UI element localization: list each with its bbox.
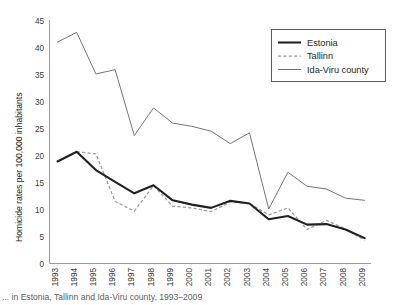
figure-container: 45 40 35 30 25 20 15 10 5 0 Homicide rat… — [0, 0, 394, 305]
x-tick-label: 1997 — [127, 268, 136, 287]
x-tick-label: 2001 — [204, 268, 213, 287]
y-tick-label: 15 — [35, 179, 45, 188]
x-tick-label: 2007 — [319, 268, 328, 287]
x-tick-label: 1998 — [147, 268, 156, 287]
homicide-rates-line-chart: 45 40 35 30 25 20 15 10 5 0 Homicide rat… — [0, 0, 394, 305]
figure-caption: ... in Estonia, Tallinn and Ida-Viru cou… — [2, 293, 202, 302]
y-tick-label: 35 — [35, 71, 45, 80]
x-tick-label: 1999 — [166, 268, 175, 287]
x-tick-label: 1995 — [89, 268, 98, 287]
x-tick-label: 2000 — [185, 268, 194, 287]
figure-caption-clip: ... in Estonia, Tallinn and Ida-Viru cou… — [0, 293, 394, 305]
x-tick-label: 2009 — [358, 268, 367, 287]
y-tick-label: 5 — [39, 233, 44, 242]
x-tick-label: 2004 — [262, 268, 271, 287]
y-tick-label: 40 — [35, 44, 45, 53]
x-tick-label: 2005 — [281, 268, 290, 287]
x-tick-label: 1996 — [108, 268, 117, 287]
y-tick-label: 25 — [35, 125, 45, 134]
x-tick-label: 2003 — [243, 268, 252, 287]
x-tick-label: 2008 — [339, 268, 348, 287]
y-tick-label: 0 — [39, 260, 44, 269]
chart-legend: Estonia Tallinn Ida-Viru county — [272, 30, 386, 82]
x-tick-label: 1993 — [51, 268, 60, 287]
legend-label-tallinn: Tallinn — [307, 51, 333, 61]
x-tick-label: 2002 — [223, 268, 232, 287]
y-tick-label: 30 — [35, 98, 45, 107]
legend-label-estonia: Estonia — [307, 38, 339, 48]
y-tick-label: 45 — [35, 17, 45, 26]
x-tick-label: 2006 — [300, 268, 309, 287]
legend-label-ida-viru-county: Ida-Viru county — [307, 65, 369, 75]
y-axis-title: Homicide rates per 100,000 inhabitants — [14, 92, 24, 242]
x-tick-label: 1994 — [70, 268, 79, 287]
y-tick-label: 10 — [35, 206, 45, 215]
y-tick-label: 20 — [35, 152, 45, 161]
